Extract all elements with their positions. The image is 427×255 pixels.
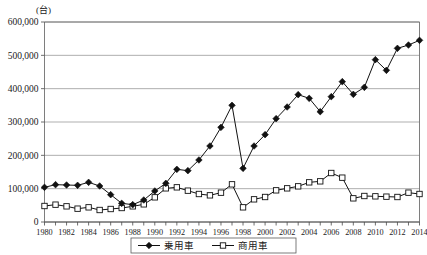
y-tick-label-600000: 600,000 bbox=[8, 17, 39, 27]
x-tick-label-1990: 1990 bbox=[147, 228, 163, 237]
data-point bbox=[240, 205, 245, 210]
data-point bbox=[64, 204, 69, 209]
data-point bbox=[97, 207, 102, 212]
line-chart: (台) 600,000500,000400,000300,000200,0001… bbox=[0, 0, 427, 255]
y-tick-label-500000: 500,000 bbox=[8, 51, 39, 61]
y-tick-label-0: 0 bbox=[34, 217, 39, 227]
data-point bbox=[351, 196, 356, 201]
data-point bbox=[207, 193, 212, 198]
x-tick-label-1994: 1994 bbox=[191, 228, 207, 237]
legend-label: 乗用車 bbox=[164, 240, 194, 251]
chart-legend: 乗用車商用車 bbox=[131, 238, 296, 253]
legend-label: 商用車 bbox=[238, 240, 268, 251]
x-tick-label-1992: 1992 bbox=[169, 228, 185, 237]
data-point bbox=[307, 180, 312, 185]
data-point bbox=[262, 194, 267, 199]
y-tick-label-300000: 300,000 bbox=[8, 117, 39, 127]
data-point bbox=[273, 188, 278, 193]
x-tick-label-2014: 2014 bbox=[411, 228, 427, 237]
data-point bbox=[384, 194, 389, 199]
x-tick-label-1996: 1996 bbox=[213, 228, 229, 237]
data-point bbox=[395, 194, 400, 199]
y-tick-label-100000: 100,000 bbox=[8, 184, 39, 194]
x-tick-label-1998: 1998 bbox=[235, 228, 251, 237]
data-point bbox=[75, 206, 80, 211]
x-tick-label-2010: 2010 bbox=[367, 228, 383, 237]
data-point bbox=[108, 206, 113, 211]
x-tick-label-2004: 2004 bbox=[301, 228, 317, 237]
data-point bbox=[152, 195, 157, 200]
y-tick-label-400000: 400,000 bbox=[8, 84, 39, 94]
data-point bbox=[417, 191, 422, 196]
legend-marker-open-square bbox=[220, 243, 225, 248]
x-tick-label-2000: 2000 bbox=[257, 228, 273, 237]
data-point bbox=[362, 193, 367, 198]
x-tick-label-1980: 1980 bbox=[36, 228, 52, 237]
data-point bbox=[53, 202, 58, 207]
data-point bbox=[218, 190, 223, 195]
data-point bbox=[86, 205, 91, 210]
x-tick-label-1984: 1984 bbox=[80, 228, 96, 237]
data-point bbox=[373, 194, 378, 199]
chart-container: (台) 600,000500,000400,000300,000200,0001… bbox=[0, 0, 427, 255]
data-point bbox=[329, 170, 334, 175]
x-tick-label-2006: 2006 bbox=[323, 228, 339, 237]
data-point bbox=[340, 175, 345, 180]
data-point bbox=[174, 185, 179, 190]
x-tick-label-1988: 1988 bbox=[125, 228, 141, 237]
data-point bbox=[42, 203, 47, 208]
data-point bbox=[295, 184, 300, 189]
x-tick-label-1986: 1986 bbox=[102, 228, 118, 237]
data-point bbox=[196, 191, 201, 196]
data-point bbox=[185, 188, 190, 193]
data-point bbox=[284, 186, 289, 191]
data-point bbox=[251, 197, 256, 202]
plot-background bbox=[0, 0, 427, 255]
y-tick-label-200000: 200,000 bbox=[8, 151, 39, 161]
data-point bbox=[318, 179, 323, 184]
x-tick-label-2008: 2008 bbox=[345, 228, 361, 237]
x-tick-label-2002: 2002 bbox=[279, 228, 295, 237]
x-tick-label-2012: 2012 bbox=[389, 228, 405, 237]
data-point bbox=[406, 190, 411, 195]
data-point bbox=[229, 182, 234, 187]
x-tick-label-1982: 1982 bbox=[58, 228, 74, 237]
y-axis-unit-label: (台) bbox=[36, 4, 51, 15]
